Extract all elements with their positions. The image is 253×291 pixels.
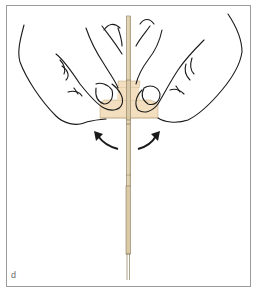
- rod-over-tape: [127, 80, 131, 120]
- illustration: [0, 0, 253, 291]
- rotation-arrow-left: [94, 131, 118, 149]
- panel-label: d: [11, 271, 16, 280]
- rod: [126, 16, 131, 280]
- rotation-arrow-right: [138, 131, 160, 149]
- left-hand: [19, 24, 123, 124]
